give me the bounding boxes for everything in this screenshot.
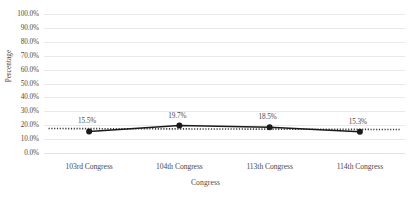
data-label: 15.3% <box>349 118 367 126</box>
y-axis-tick-label: 70.0% <box>21 52 39 60</box>
x-axis-title: Congress <box>0 178 411 187</box>
y-axis-tick-label: 40.0% <box>21 93 39 101</box>
y-axis-tick-labels: 0.0%10.0%20.0%30.0%40.0%50.0%60.0%70.0%8… <box>0 0 42 199</box>
data-label: 19.7% <box>168 112 186 120</box>
y-axis-tick-label: 10.0% <box>21 135 39 143</box>
x-axis-tick-label: 104th Congress <box>156 162 203 171</box>
x-axis-tick-label: 113th Congress <box>246 162 292 171</box>
series-line-path <box>89 126 360 132</box>
data-point-marker <box>176 123 182 129</box>
data-point-marker <box>86 128 92 134</box>
line-chart: Percentage 0.0%10.0%20.0%30.0%40.0%50.0%… <box>0 0 411 199</box>
gridline <box>44 153 405 154</box>
x-axis-tick-label: 103rd Congress <box>66 162 113 171</box>
y-axis-tick-label: 90.0% <box>21 24 39 32</box>
plot-area: 15.5%19.7%18.5%15.3% <box>44 14 405 153</box>
y-axis-tick-label: 50.0% <box>21 80 39 88</box>
data-point-marker <box>267 124 273 130</box>
y-axis-tick-label: 30.0% <box>21 107 39 115</box>
data-label: 15.5% <box>78 117 96 125</box>
y-axis-tick-label: 100.0% <box>17 10 39 18</box>
trendline-path <box>49 129 401 130</box>
data-point-marker <box>357 129 363 135</box>
y-axis-tick-label: 0.0% <box>24 149 39 157</box>
x-axis-tick-labels: 103rd Congress104th Congress113th Congre… <box>44 155 405 171</box>
series-layer <box>44 14 405 153</box>
y-axis-tick-label: 20.0% <box>21 121 39 129</box>
data-label: 18.5% <box>258 113 276 121</box>
x-axis-tick-label: 114th Congress <box>337 162 383 171</box>
y-axis-tick-label: 60.0% <box>21 66 39 74</box>
y-axis-tick-label: 80.0% <box>21 38 39 46</box>
